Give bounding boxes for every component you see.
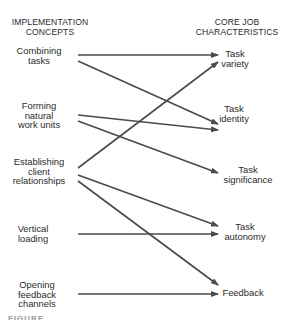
arrow-forming-to-identity: [78, 115, 218, 130]
figure-caption-partial: FIGURE: [8, 314, 44, 320]
arrow-establishing-to-feedback: [78, 181, 218, 285]
connection-arrows: [0, 0, 293, 320]
arrow-forming-to-significance: [78, 121, 218, 173]
arrow-establishing-to-autonomy: [78, 175, 218, 226]
